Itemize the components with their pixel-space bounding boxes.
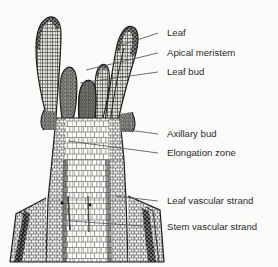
stem-axis	[44, 112, 132, 264]
label-leaf: Leaf	[167, 27, 186, 38]
figure-canvas: Leaf Apical meristem Leaf bud Axillary b…	[0, 0, 278, 267]
label-stem-vascular-strand: Stem vascular strand	[167, 221, 257, 232]
label-leaf-vascular-strand: Leaf vascular strand	[167, 195, 253, 206]
label-leaf-bud: Leaf bud	[167, 66, 204, 77]
label-apical-meristem: Apical meristem	[167, 47, 235, 58]
label-elongation-zone: Elongation zone	[167, 147, 236, 158]
shoot-apex-diagram: Leaf Apical meristem Leaf bud Axillary b…	[0, 0, 278, 267]
label-axillary-bud: Axillary bud	[167, 128, 217, 139]
